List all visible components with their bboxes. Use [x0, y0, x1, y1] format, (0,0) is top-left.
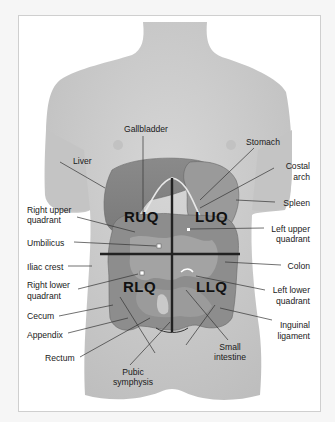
quadrant-ruq: RUQ — [124, 208, 159, 225]
label-rectum: Rectum — [45, 353, 75, 363]
label-left-lower-quadrant-2: quadrant — [276, 296, 310, 306]
label-right-upper-quadrant-2: quadrant — [27, 215, 61, 225]
label-right-lower-quadrant-2: quadrant — [27, 291, 61, 301]
label-small-intestine-2: intestine — [208, 352, 252, 362]
label-left-upper-quadrant-1: Left upper — [271, 224, 310, 234]
label-colon: Colon — [288, 261, 310, 271]
quadrant-llq: LLQ — [196, 278, 228, 295]
left-nipple — [226, 140, 236, 150]
label-pubic-symphysis-2: symphysis — [108, 377, 158, 387]
label-spleen: Spleen — [283, 198, 310, 208]
luq-marker — [187, 228, 190, 231]
label-stomach: Stomach — [246, 137, 280, 147]
label-left-lower-quadrant-1: Left lower — [273, 285, 310, 295]
label-small-intestine-1: Small — [208, 342, 252, 352]
label-liver: Liver — [73, 156, 92, 166]
quadrant-rlq: RLQ — [123, 278, 156, 295]
label-left-upper-quadrant-2: quadrant — [276, 234, 310, 244]
label-gallbladder: Gallbladder — [124, 124, 168, 134]
label-costal-arch-2: arch — [293, 172, 310, 182]
label-inguinal-ligament-1: Inguinal — [280, 320, 310, 330]
label-right-upper-quadrant-1: Right upper — [27, 205, 71, 215]
right-nipple — [113, 140, 123, 150]
rlq-marker — [140, 271, 144, 275]
label-iliac-crest: Iliac crest — [27, 262, 63, 272]
quadrant-luq: LUQ — [195, 208, 228, 225]
umbilicus-marker — [157, 244, 161, 248]
label-costal-arch-1: Costal — [286, 161, 310, 171]
label-pubic-symphysis-1: Pubic — [108, 367, 158, 377]
label-right-lower-quadrant-1: Right lower — [27, 280, 70, 290]
label-umbilicus: Umbilicus — [27, 238, 64, 248]
label-cecum: Cecum — [27, 311, 54, 321]
label-appendix: Appendix — [27, 330, 63, 340]
label-inguinal-ligament-2: ligament — [278, 331, 310, 341]
